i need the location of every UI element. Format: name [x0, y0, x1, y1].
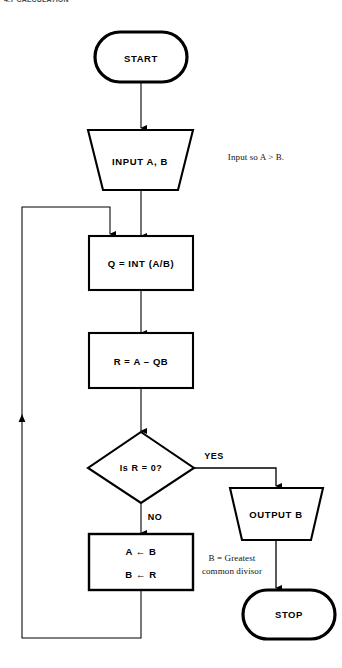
node-start-terminator — [95, 32, 187, 82]
annotation-output-note-line1: B = Greatest — [209, 553, 256, 564]
edge-decision-yes-to-output — [194, 468, 276, 486]
flowchart-diagram: 4.7 CALCULATION — [0, 0, 342, 668]
node-output-parallelogram — [230, 488, 323, 540]
node-remainder-process — [89, 333, 193, 388]
node-swap-process — [89, 534, 193, 590]
node-quotient-process — [89, 236, 193, 290]
node-stop-terminator — [243, 590, 335, 639]
loop-up-arrowhead-icon — [19, 414, 26, 422]
flowchart-canvas — [0, 0, 342, 668]
label-edge-yes: YES — [204, 451, 224, 461]
annotation-input-note: Input so A > B. — [228, 152, 284, 163]
label-edge-no: NO — [148, 512, 163, 522]
node-decision-diamond — [88, 432, 194, 503]
node-input-parallelogram — [88, 130, 193, 190]
annotation-output-note-line2: common divisor — [202, 566, 262, 577]
